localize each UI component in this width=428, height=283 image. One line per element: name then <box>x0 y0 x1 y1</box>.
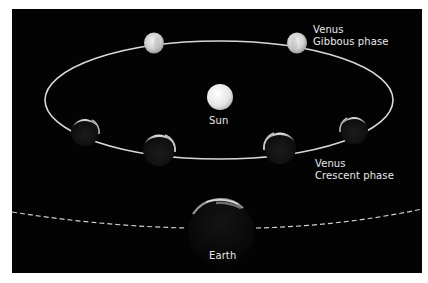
venus-crescent-2-icon <box>143 134 175 166</box>
earth-orbit-left <box>12 212 186 228</box>
label-earth: Earth <box>209 250 236 262</box>
venus-crescent-4-icon <box>340 116 368 144</box>
venus-gibbous-right-icon <box>287 33 307 54</box>
venus-crescent-3-icon <box>264 132 296 164</box>
label-sun: Sun <box>209 115 228 127</box>
sun-icon <box>207 84 233 110</box>
venus-gibbous-left-icon <box>144 33 164 54</box>
earth-orbit-right <box>256 209 422 228</box>
label-venus-gibbous-phase: Gibbous phase <box>313 36 389 48</box>
label-venus-crescent-phase: Crescent phase <box>315 170 394 182</box>
label-venus-gibbous-title: Venus <box>313 24 344 36</box>
venus-crescent-1-icon <box>71 118 99 146</box>
label-venus-crescent-title: Venus <box>315 158 346 170</box>
